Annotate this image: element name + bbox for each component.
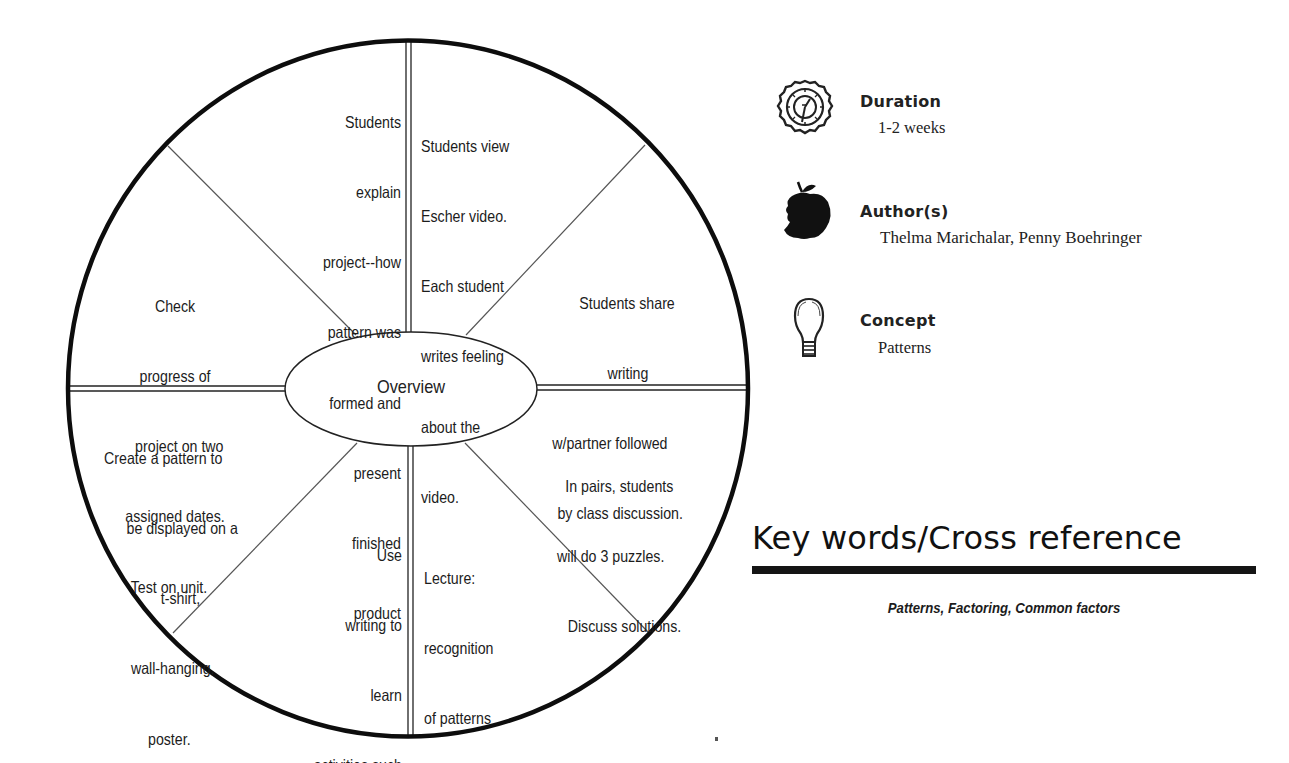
segment-line: of patterns: [424, 707, 562, 730]
duration-heading: Duration: [860, 92, 941, 111]
segment-line: writing: [529, 362, 701, 385]
segment-line: writing to: [256, 614, 402, 637]
segment-line: formed and: [263, 392, 401, 415]
segment-line: pattern was: [263, 321, 401, 344]
authors-heading: Author(s): [860, 202, 949, 221]
segment-line: Students view: [421, 135, 559, 158]
keywords-list: Patterns, Factoring, Common factors: [782, 599, 1226, 616]
segment-bottom-right: Lecture: recognition of patterns involve…: [424, 520, 562, 763]
keywords-divider: [752, 566, 1256, 574]
duration-value: 1-2 weeks: [878, 118, 945, 138]
segment-left-upper: Check progress of project on two assigne…: [89, 248, 261, 646]
lightbulb-icon: [792, 296, 826, 366]
segment-line: Students share: [529, 292, 701, 315]
segment-line: assigned dates.: [89, 505, 261, 528]
segment-bottom-left: Use writing to learn activities such as …: [256, 497, 402, 763]
segment-line: Lecture:: [424, 567, 562, 590]
segment-line: learn: [256, 684, 402, 707]
scan-speck: [715, 737, 718, 741]
segment-line: explain: [263, 181, 401, 204]
segment-line: poster.: [83, 728, 246, 751]
segment-line: present: [263, 462, 401, 485]
lesson-wheel-diagram: Overview Students explain project--how p…: [0, 0, 820, 763]
segment-line: Students: [263, 111, 401, 134]
segment-line: activities such: [256, 754, 402, 763]
concept-value: Patterns: [878, 338, 931, 358]
apple-icon: [776, 180, 834, 248]
segment-line: wall-hanging,: [83, 657, 246, 680]
segment-line: project on two: [89, 435, 261, 458]
segment-line: progress of: [89, 365, 261, 388]
segment-line: Check: [89, 295, 261, 318]
keywords-title: Key words/Cross reference: [752, 519, 1182, 557]
segment-line: Use: [256, 544, 402, 567]
authors-value: Thelma Marichalar, Penny Boehringer: [880, 228, 1142, 248]
segment-line: Escher video.: [421, 205, 559, 228]
segment-line: project--how: [263, 251, 401, 274]
segment-line: In pairs, students: [533, 475, 696, 498]
segment-line: Test on unit.: [89, 576, 261, 599]
segment-line: recognition: [424, 637, 562, 660]
clock-icon: [776, 78, 834, 140]
concept-heading: Concept: [860, 311, 936, 330]
